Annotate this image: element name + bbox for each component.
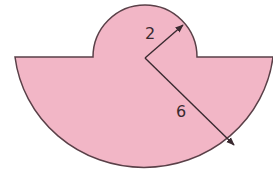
composite-shape-diagram <box>0 0 273 191</box>
small-radius-label: 2 <box>145 26 155 42</box>
large-radius-label: 6 <box>176 104 186 120</box>
composite-shape <box>15 5 273 167</box>
